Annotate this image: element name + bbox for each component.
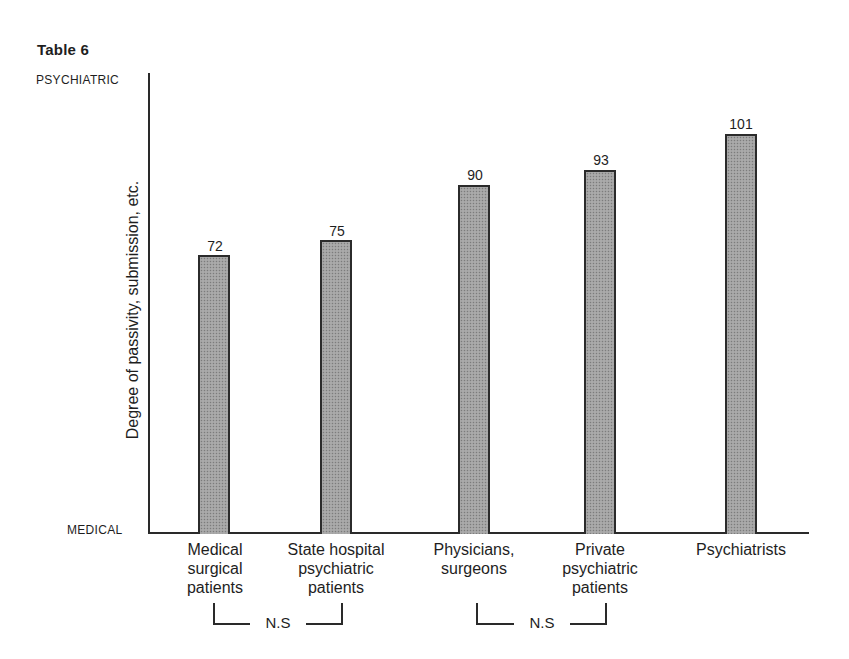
y-axis-bottom-label: MEDICAL <box>67 523 122 537</box>
bar-value-label: 75 <box>307 223 367 239</box>
bar-private-psychiatric-patients <box>584 170 616 534</box>
significance-label-1: N.S <box>250 614 306 631</box>
bar-medical-surgical-patients <box>198 255 230 534</box>
bar-value-label: 93 <box>571 152 631 168</box>
bar-state-hospital-psychiatric-patients <box>320 240 352 534</box>
category-label: Private psychiatric patients <box>530 540 670 597</box>
bar-value-label: 101 <box>711 116 771 132</box>
y-axis-top-label: PSYCHIATRIC <box>36 73 119 87</box>
bar-psychiatrists <box>725 134 757 534</box>
chart-title: Table 6 <box>37 41 89 58</box>
y-axis-line <box>148 73 150 534</box>
bar-physicians-surgeons <box>458 185 490 534</box>
bar-value-label: 90 <box>445 167 505 183</box>
category-label: State hospital psychiatric patients <box>266 540 406 597</box>
category-label: Medical surgical patients <box>145 540 285 597</box>
y-axis-title: Degree of passivity, submission, etc. <box>124 181 142 439</box>
bar-value-label: 72 <box>185 238 245 254</box>
category-label: Physicians, surgeons <box>404 540 544 578</box>
category-label: Psychiatrists <box>671 540 811 559</box>
significance-label-2: N.S <box>514 614 570 631</box>
